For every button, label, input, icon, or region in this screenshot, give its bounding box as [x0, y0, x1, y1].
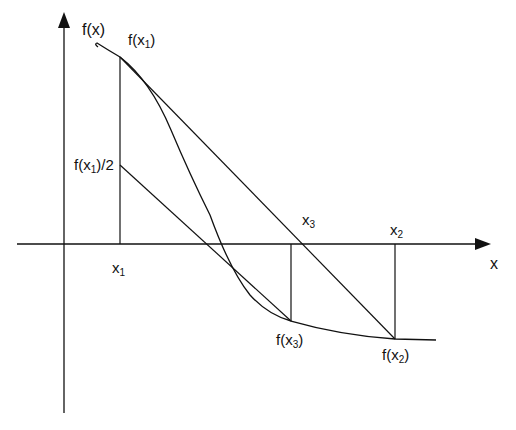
y-axis-label: f(x) [82, 22, 105, 38]
x-axis-label: x [490, 256, 498, 272]
label-x3-base: x [302, 211, 310, 228]
label-f-x1-base: f(x [128, 31, 145, 48]
label-f-x1-half-close: )/2 [96, 156, 114, 173]
diagram-canvas [0, 0, 516, 430]
chord-fx1half-fx3 [120, 165, 291, 321]
label-f-x3-close: ) [298, 331, 303, 348]
label-x3-sub: 3 [310, 219, 316, 230]
label-f-x1-half-base: f(x [74, 156, 91, 173]
y-axis-arrow-icon [58, 12, 70, 28]
label-x2-base: x [390, 221, 398, 238]
label-f-x1-close: ) [150, 31, 155, 48]
label-x2: x2 [390, 222, 403, 240]
label-f-x1-half: f(x1)/2 [74, 157, 114, 175]
label-x2-sub: 2 [398, 229, 404, 240]
label-f-x2-base: f(x [382, 346, 399, 363]
label-f-x2: f(x2) [382, 347, 409, 365]
label-f-x1: f(x1) [128, 32, 155, 50]
label-f-x3: f(x3) [276, 332, 303, 350]
label-x1-sub: 1 [120, 267, 126, 278]
x-axis-arrow-icon [475, 238, 491, 250]
chord-fx1-fx2 [120, 57, 395, 339]
label-f-x3-base: f(x [276, 331, 293, 348]
function-curve [96, 43, 436, 340]
label-f-x2-close: ) [404, 346, 409, 363]
label-x1-base: x [112, 259, 120, 276]
label-x3: x3 [302, 212, 315, 230]
label-x1: x1 [112, 260, 125, 278]
